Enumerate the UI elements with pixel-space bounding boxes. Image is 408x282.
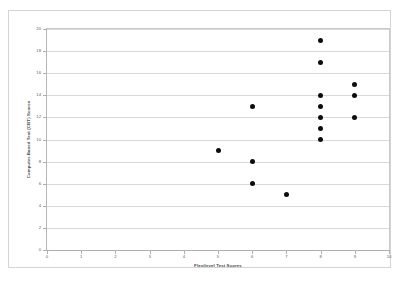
y-axis-tick <box>43 184 47 185</box>
scatter-point <box>318 60 323 65</box>
y-axis-title-text: Computer-Based Test (CBT) Scores <box>27 101 32 179</box>
x-axis-tick-label: 2 <box>114 255 116 259</box>
y-axis-tick <box>43 140 47 141</box>
gridline <box>47 95 389 96</box>
scatter-point <box>250 181 255 186</box>
y-axis-tick-label: 14 <box>36 93 41 97</box>
gridline <box>47 29 389 30</box>
y-axis-tick-label: 8 <box>39 159 41 163</box>
x-axis-tick-label: 7 <box>285 255 287 259</box>
y-axis-tick <box>43 51 47 52</box>
x-axis-title: Flexilevel Test Scores <box>46 263 390 268</box>
gridline <box>47 228 389 229</box>
y-axis-tick-label: 20 <box>36 27 41 31</box>
y-axis-tick-label: 0 <box>39 248 41 252</box>
y-axis-tick-label: 16 <box>36 71 41 75</box>
y-axis-tick <box>43 29 47 30</box>
scatter-point <box>318 104 323 109</box>
scatter-point <box>352 82 357 87</box>
x-axis-tick-label: 6 <box>251 255 253 259</box>
y-axis-tick-label: 6 <box>39 182 41 186</box>
scatter-point <box>352 93 357 98</box>
x-axis-tick-label: 8 <box>319 255 321 259</box>
gridline <box>47 140 389 141</box>
y-axis-tick <box>43 117 47 118</box>
x-axis-tick-label: 3 <box>148 255 150 259</box>
scatter-point <box>318 93 323 98</box>
y-axis-tick <box>43 206 47 207</box>
y-axis-tick-label: 18 <box>36 49 41 53</box>
gridline <box>47 162 389 163</box>
scatter-point <box>250 104 255 109</box>
gridline <box>47 117 389 118</box>
scatter-point <box>250 159 255 164</box>
scatter-point <box>284 192 289 197</box>
y-axis-tick-label: 12 <box>36 115 41 119</box>
scatter-point <box>318 137 323 142</box>
y-axis-title: Computer-Based Test (CBT) Scores <box>25 28 33 251</box>
gridline <box>47 184 389 185</box>
plot-area: 02468101214161820 012345678910 <box>46 28 390 251</box>
y-axis-tick-label: 2 <box>39 226 41 230</box>
y-axis-tick <box>43 95 47 96</box>
x-axis-tick-label: 9 <box>354 255 356 259</box>
x-axis-tick-label: 0 <box>46 255 48 259</box>
scatter-point <box>352 115 357 120</box>
gridline <box>47 73 389 74</box>
gridline <box>47 206 389 207</box>
scatter-point <box>216 148 221 153</box>
chart-frame: 02468101214161820 012345678910 Computer-… <box>8 10 391 268</box>
y-axis-tick <box>43 162 47 163</box>
scatter-point <box>318 115 323 120</box>
x-axis-tick-label: 1 <box>80 255 82 259</box>
x-axis-tick-label: 4 <box>183 255 185 259</box>
y-axis-tick-label: 10 <box>36 137 41 141</box>
y-axis-tick <box>43 228 47 229</box>
gridline <box>47 51 389 52</box>
x-axis-tick-label: 5 <box>217 255 219 259</box>
x-axis-tick-label: 10 <box>387 255 392 259</box>
scatter-point <box>318 38 323 43</box>
y-axis-tick-label: 4 <box>39 204 41 208</box>
scatter-point <box>318 126 323 131</box>
y-axis-tick <box>43 73 47 74</box>
